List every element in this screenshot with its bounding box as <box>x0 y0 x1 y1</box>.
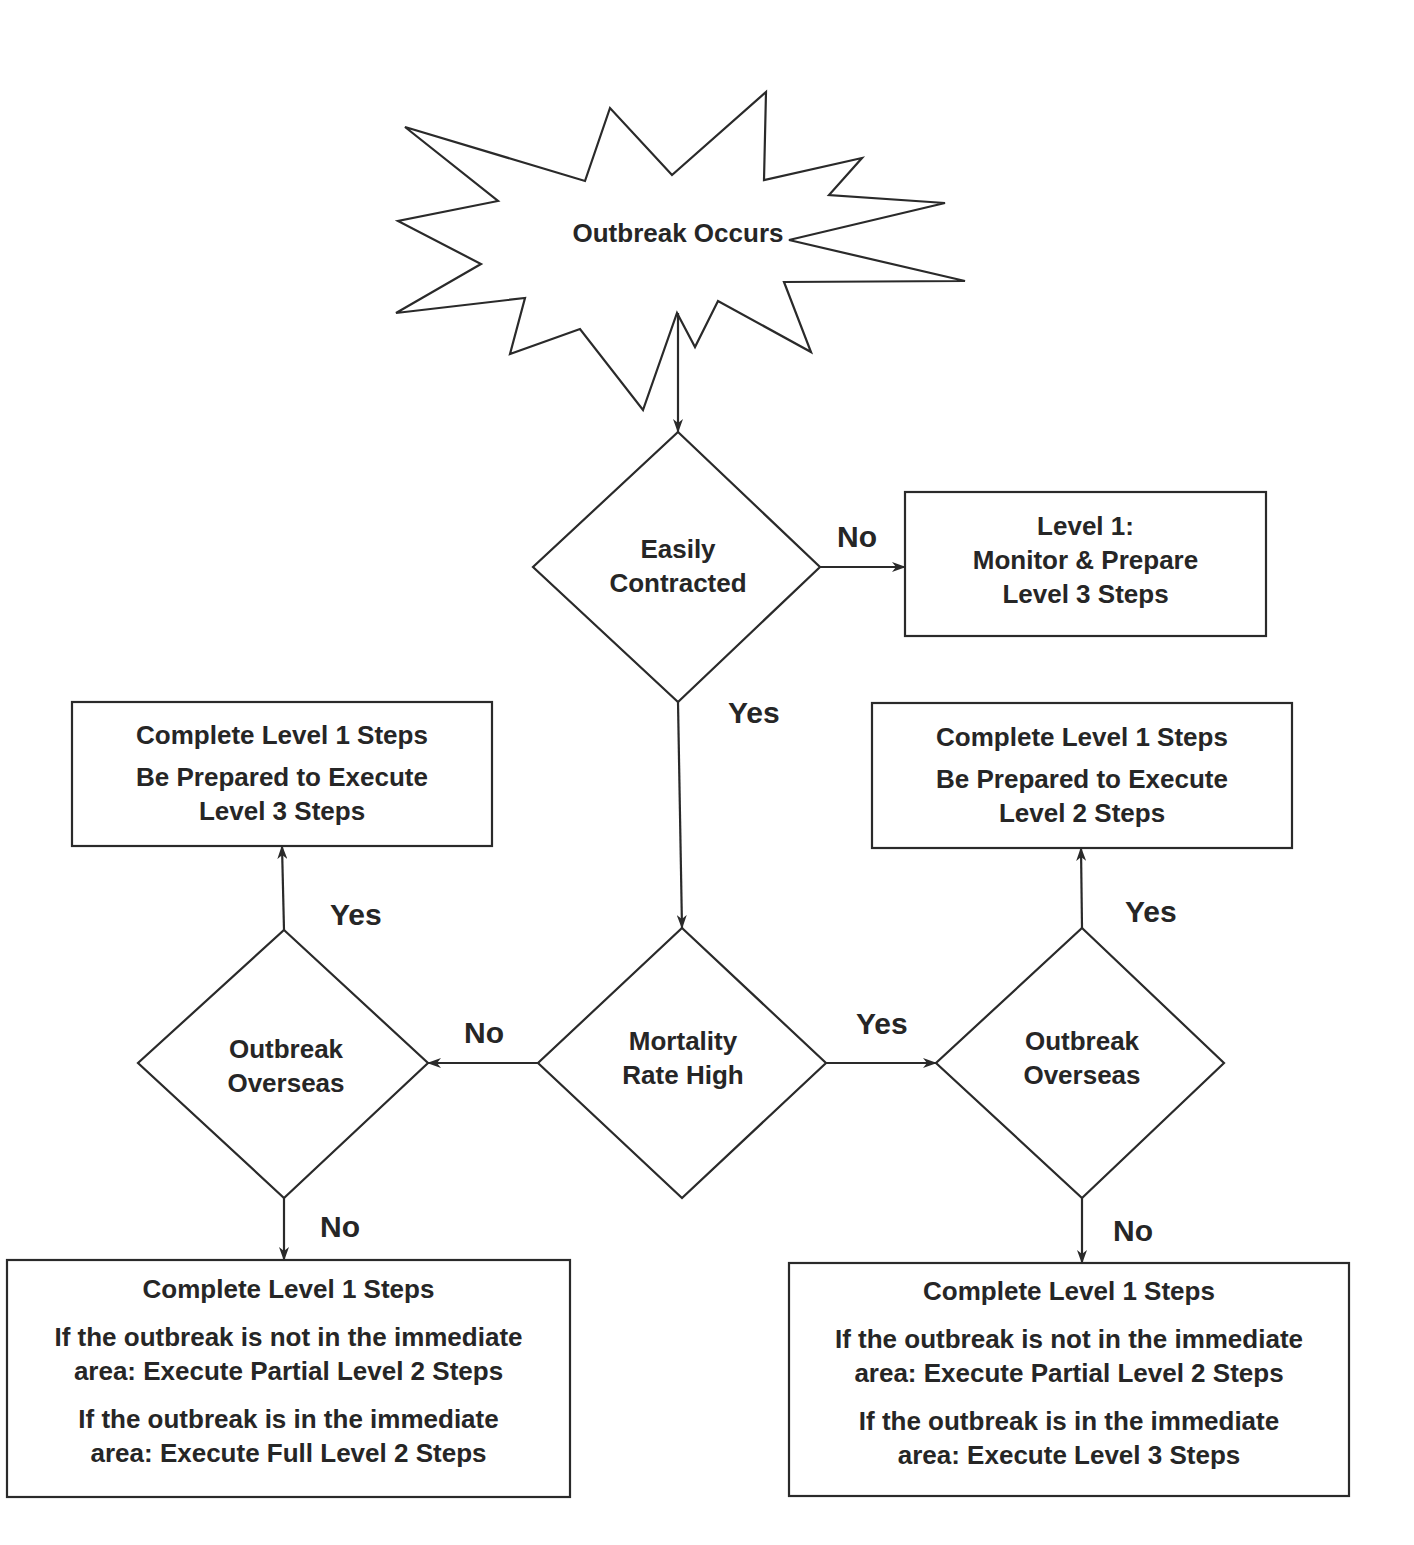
decision-text-line: Outbreak <box>1025 1024 1139 1058</box>
decision-text-line: Mortality <box>629 1024 737 1058</box>
edge-label-right-overseas-no: No <box>1113 1214 1153 1248</box>
decision-text-line: Easily <box>640 532 715 566</box>
decision-text-line: Rate High <box>622 1058 743 1092</box>
outcome-text-line: Monitor & Prepare <box>973 543 1198 577</box>
outcome-text-line: Complete Level 1 Steps <box>143 1272 435 1306</box>
start-label-text: Outbreak Occurs <box>573 216 784 250</box>
outcome-left-no: Complete Level 1 Steps If the outbreak i… <box>7 1266 570 1476</box>
outcome-text-line: Complete Level 1 Steps <box>136 718 428 752</box>
arrow-left-overseas-yes <box>282 846 284 930</box>
decision-text-line: Outbreak <box>229 1032 343 1066</box>
outcome-text-line: Be Prepared to Execute <box>936 762 1228 796</box>
outcome-text-line: Level 3 Steps <box>199 794 365 828</box>
edge-label-easily-no: No <box>837 520 877 554</box>
outcome-left-yes: Complete Level 1 Steps Be Prepared to Ex… <box>72 716 492 830</box>
start-node-label: Outbreak Occurs <box>498 212 858 254</box>
outcome-text-line: Level 2 Steps <box>999 796 1165 830</box>
decision-text-line: Contracted <box>609 566 746 600</box>
outcome-text-line: area: Execute Partial Level 2 Steps <box>74 1354 503 1388</box>
decision-overseas-left: Outbreak Overseas <box>168 1030 404 1102</box>
edge-label-right-overseas-yes: Yes <box>1125 895 1177 929</box>
outcome-text-line: Level 3 Steps <box>1002 577 1168 611</box>
decision-text-line: Overseas <box>227 1066 344 1100</box>
arrow-right-overseas-yes <box>1081 848 1082 928</box>
outcome-text-line: Complete Level 1 Steps <box>936 720 1228 754</box>
decision-text-line: Overseas <box>1023 1058 1140 1092</box>
outcome-text-line: If the outbreak is in the immediate <box>859 1404 1279 1438</box>
edge-label-easily-yes: Yes <box>728 696 780 730</box>
outcome-text-line: If the outbreak is in the immediate <box>78 1402 498 1436</box>
outcome-text-line: area: Execute Full Level 2 Steps <box>91 1436 487 1470</box>
decision-overseas-right: Outbreak Overseas <box>964 1022 1200 1094</box>
outcome-level1: Level 1: Monitor & Prepare Level 3 Steps <box>905 508 1266 612</box>
decision-mortality: Mortality Rate High <box>565 1022 801 1094</box>
edge-label-left-overseas-no: No <box>320 1210 360 1244</box>
decision-easily-contracted: Easily Contracted <box>560 530 796 602</box>
edge-label-mortality-yes: Yes <box>856 1007 908 1041</box>
edge-label-mortality-no: No <box>464 1016 504 1050</box>
outcome-text-line: area: Execute Partial Level 2 Steps <box>854 1356 1283 1390</box>
outcome-text-line: If the outbreak is not in the immediate <box>54 1320 522 1354</box>
outcome-text-line: If the outbreak is not in the immediate <box>835 1322 1303 1356</box>
outcome-text-line: Level 1: <box>1037 509 1134 543</box>
outcome-text-line: area: Execute Level 3 Steps <box>898 1438 1241 1472</box>
arrow-easily-yes <box>678 702 682 928</box>
outcome-right-yes: Complete Level 1 Steps Be Prepared to Ex… <box>872 718 1292 832</box>
outcome-text-line: Be Prepared to Execute <box>136 760 428 794</box>
outcome-text-line: Complete Level 1 Steps <box>923 1274 1215 1308</box>
edge-label-left-overseas-yes: Yes <box>330 898 382 932</box>
outcome-right-no: Complete Level 1 Steps If the outbreak i… <box>789 1268 1349 1478</box>
